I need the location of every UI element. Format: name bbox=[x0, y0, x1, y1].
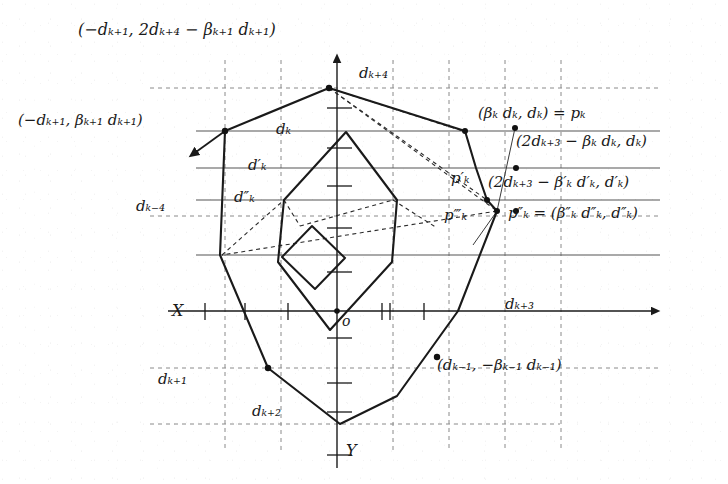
origin-dot bbox=[334, 308, 340, 314]
label-pk: (βₖ dₖ, dₖ) = pₖ bbox=[478, 106, 585, 121]
label-pk-triple-prime: p‴ₖ bbox=[444, 208, 467, 223]
label-top-point: (−dₖ₊₁, 2dₖ₊₄ − βₖ₊₁ dₖ₊₁) bbox=[78, 22, 276, 38]
label-y-axis: Y bbox=[346, 443, 357, 459]
label-left-point: (−dₖ₊₁, βₖ₊₁ dₖ₊₁) bbox=[18, 113, 143, 128]
label-pk-double-prime: p″ₖ = (β″ₖ d″ₖ, d″ₖ) bbox=[508, 206, 638, 221]
vertex-top bbox=[326, 85, 332, 91]
label-origin: o bbox=[342, 314, 350, 328]
label-pk-prime-mirror: (2dₖ₊₃ − β′ₖ d′ₖ, d′ₖ) bbox=[488, 175, 629, 190]
label-d-k-minus-4: dₖ₋₄ bbox=[136, 199, 165, 214]
vertex-pk-triple bbox=[494, 208, 500, 214]
coordinate-axes bbox=[168, 62, 652, 468]
vertex-pk-prime-mirror bbox=[513, 165, 519, 171]
label-d-k-plus-1: dₖ₊₁ bbox=[158, 372, 187, 387]
label-d-k: dₖ bbox=[276, 122, 291, 137]
label-d-k-plus-2: dₖ₊₂ bbox=[252, 404, 281, 419]
vertex-bottom-left bbox=[265, 365, 271, 371]
label-d-k-prime: d′ₖ bbox=[248, 158, 266, 173]
vertex-pk-prime bbox=[484, 197, 490, 203]
label-d-k-plus-3: dₖ₊₃ bbox=[505, 297, 534, 312]
vertex-markers bbox=[222, 85, 519, 371]
left-direction-segment bbox=[196, 131, 225, 152]
vertex-pk-mirror bbox=[512, 125, 518, 131]
label-pk-mirror: (2dₖ₊₃ − βₖ dₖ, dₖ) bbox=[516, 134, 647, 149]
label-bottom-right-point: (dₖ₋₁, −βₖ₋₁ dₖ₋₁) bbox=[437, 358, 562, 373]
label-d-k-double-prime: d″ₖ bbox=[234, 190, 255, 205]
label-d-k-plus-4: dₖ₊₄ bbox=[359, 66, 388, 81]
label-pk-prime: p′ₖ bbox=[451, 171, 469, 186]
label-x-axis: X bbox=[172, 303, 183, 319]
vertex-pk bbox=[462, 128, 468, 134]
vertex-left bbox=[222, 128, 228, 134]
